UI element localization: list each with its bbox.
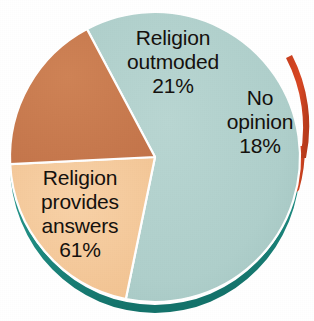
pie-slices xyxy=(10,12,300,302)
pie-chart-figure: Religion provides answers 61% Religion o… xyxy=(0,0,314,321)
pie-chart-svg xyxy=(0,0,314,321)
